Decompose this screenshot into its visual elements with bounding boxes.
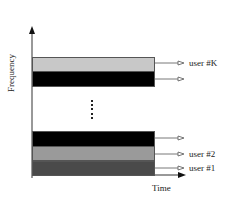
band-unlabeled-top (32, 71, 155, 87)
label-user-1: user #1 (189, 163, 215, 173)
output-arrow-icon (178, 77, 184, 81)
band-user-k (32, 57, 155, 72)
label-user-k: user #K (189, 58, 217, 68)
band-user-2 (32, 146, 155, 161)
frequency-axis-arrow-icon (29, 26, 35, 34)
band-unlabeled-bottom (32, 131, 155, 147)
output-arrow-icon (178, 152, 184, 156)
band-user-1 (32, 161, 155, 176)
vertical-ellipsis-icon (91, 100, 93, 119)
output-arrow-icon (178, 166, 184, 170)
output-arrow-icon (178, 136, 184, 140)
time-axis-arrow-icon (178, 172, 186, 178)
label-user-2: user #2 (189, 149, 215, 159)
output-arrow-icon (178, 61, 184, 65)
x-axis-label: Time (152, 183, 171, 193)
y-axis-label: Frequency (6, 54, 16, 92)
